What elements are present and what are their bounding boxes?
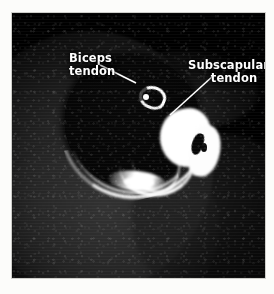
- biceps-tendon-core: [143, 94, 149, 100]
- shoulder-scan-image: Biceps tendon Subscapularis tendon: [12, 13, 265, 278]
- biceps-label-line2: tendon: [69, 65, 115, 78]
- subscapularis-notch-small: [201, 143, 207, 152]
- biceps-label-line1: Biceps: [69, 52, 115, 65]
- subscapularis-tendon-label: Subscapularis tendon: [188, 59, 265, 84]
- subscapularis-label-line1: Subscapularis: [188, 59, 265, 72]
- biceps-tendon-label: Biceps tendon: [69, 52, 115, 77]
- figure-container: Biceps tendon Subscapularis tendon: [0, 0, 274, 294]
- subscapularis-label-line2: tendon: [188, 72, 265, 85]
